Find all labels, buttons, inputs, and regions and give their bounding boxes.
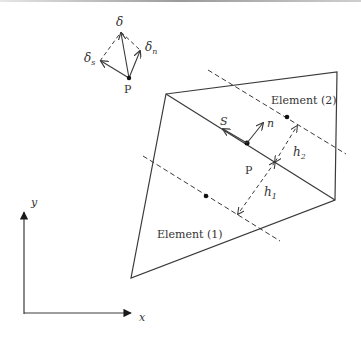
inset-point-label: P	[124, 83, 132, 96]
point-p-label: P	[245, 164, 253, 177]
s-label: S	[220, 115, 228, 128]
element2-centroid-line	[208, 70, 346, 154]
n-arrow	[247, 123, 263, 143]
delta-arrow	[121, 33, 129, 78]
h2-label: h2	[293, 145, 306, 161]
element2-label: Element (2)	[271, 94, 337, 107]
element2-centroid-dot	[285, 115, 290, 120]
delta-n-label: δn	[145, 40, 157, 56]
delta-label: δ	[116, 15, 123, 29]
element1-centroid-dot	[204, 194, 209, 199]
delta-s-arrow	[101, 61, 129, 78]
delta-n-arrow	[129, 51, 140, 78]
displacement-inset: δ δs δn P	[84, 15, 157, 96]
inset-point	[127, 76, 131, 80]
y-axis-label: y	[30, 196, 38, 209]
interface-element-diagram: δ δs δn P Element (2) Element (1) S n P …	[0, 0, 361, 339]
s-arrow	[223, 129, 247, 143]
interface-line	[166, 94, 335, 200]
x-axis-label: x	[139, 311, 146, 324]
h1-label: h1	[264, 185, 277, 201]
n-label: n	[267, 117, 274, 130]
elements: Element (2) Element (1) S n P h2 h1	[131, 70, 346, 278]
coordinate-axes: y x	[24, 196, 146, 324]
element1-label: Element (1)	[157, 228, 223, 241]
delta-s-label: δs	[84, 51, 95, 67]
dashed-guide-left	[100, 32, 121, 61]
